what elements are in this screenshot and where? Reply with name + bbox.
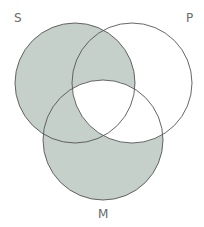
venn-diagram: S P M <box>0 0 204 227</box>
label-p: P <box>186 11 193 25</box>
shaded-area <box>15 23 163 200</box>
label-s: S <box>14 11 22 25</box>
label-m: M <box>98 207 108 221</box>
